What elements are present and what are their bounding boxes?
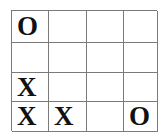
board-cell-r2c1[interactable] (12, 43, 49, 73)
cell-mark: O (12, 13, 38, 40)
board-cell-r1c1[interactable]: O (12, 11, 49, 43)
board-cell-r2c4[interactable] (124, 43, 158, 73)
board-cell-r1c2[interactable] (49, 11, 87, 43)
cell-mark: X (12, 74, 37, 101)
board-cell-r3c1[interactable]: X (12, 73, 49, 102)
board-cell-r4c4[interactable]: O (124, 102, 158, 132)
board-cell-r1c3[interactable] (87, 11, 124, 43)
board-cell-r2c2[interactable] (49, 43, 87, 73)
board-cell-r1c4[interactable] (124, 11, 158, 43)
board-cell-r3c3[interactable] (87, 73, 124, 102)
cell-mark: X (12, 103, 37, 130)
cell-mark: O (124, 103, 150, 130)
board-cell-r3c4[interactable] (124, 73, 158, 102)
board-cell-r2c3[interactable] (87, 43, 124, 73)
board-cell-r3c2[interactable] (49, 73, 87, 102)
board-cell-r4c2[interactable]: X (49, 102, 87, 132)
cell-mark: X (49, 103, 74, 130)
board-cell-r4c1[interactable]: X (12, 102, 49, 132)
game-board-grid: O X (11, 10, 157, 131)
board-container: O X (0, 0, 168, 138)
board-cell-r4c3[interactable] (87, 102, 124, 132)
